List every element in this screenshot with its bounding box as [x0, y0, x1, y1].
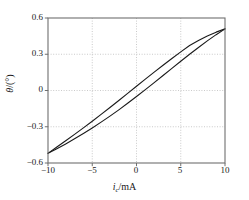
x-axis-unit: /mA [119, 181, 137, 192]
y-axis-unit: /(°) [4, 74, 15, 87]
y-tick-label: 0.6 [14, 13, 43, 22]
x-tick-label: 0 [121, 166, 151, 175]
y-axis-symbol: θ [4, 88, 15, 93]
y-tick-label: −0.3 [14, 122, 43, 131]
x-tick-label: −10 [33, 166, 63, 175]
chart-figure: 0.6 0.3 0 −0.3 −0.6 −10 −5 0 5 10 θ/(°) … [0, 0, 249, 200]
y-axis-title: θ/(°) [4, 61, 15, 107]
x-axis-title: ic/mA [0, 181, 249, 194]
y-tick-label: 0.3 [14, 49, 43, 58]
x-tick-label: 5 [165, 166, 195, 175]
x-tick-label: −5 [77, 166, 107, 175]
y-tick-label: 0 [14, 85, 43, 94]
x-tick-label: 10 [210, 166, 240, 175]
